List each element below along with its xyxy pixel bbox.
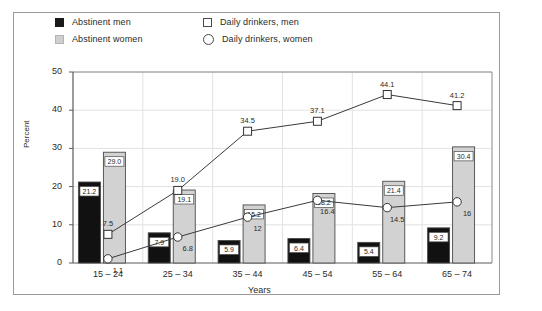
x-axis-ticks: 15 – 2425 – 3435 – 4445 – 5455 – 6465 – … [0, 0, 542, 311]
x-tick-label: 65 – 74 [417, 269, 497, 279]
x-tick-label: 25 – 34 [138, 269, 218, 279]
x-tick-label: 15 – 24 [68, 269, 148, 279]
x-tick-label: 55 – 64 [347, 269, 427, 279]
x-tick-label: 45 – 54 [277, 269, 357, 279]
chart-plot-area: 21.27.95.96.45.49.229.019.115.218.221.43… [0, 0, 542, 311]
x-tick-label: 35 – 44 [208, 269, 288, 279]
y-axis-label: Percent [22, 120, 31, 148]
x-axis-label: Years [248, 285, 271, 295]
